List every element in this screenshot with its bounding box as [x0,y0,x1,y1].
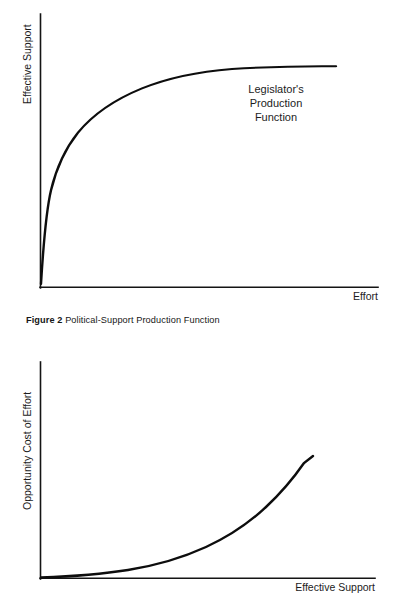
opportunity-cost-curve [41,456,313,578]
figure-opportunity-cost: Opportunity Cost of Effort Effective Sup… [0,350,394,611]
figure-caption: Figure 2 Political-Support Production Fu… [26,314,376,327]
y-axis-label-top: Effective Support [21,24,33,104]
annotation-line-2: Production [250,97,303,109]
annotation-line-3: Function [255,111,297,123]
x-axis-label-top: Effort [353,290,378,302]
curve-annotation-top: Legislator's Production Function [248,83,304,123]
annotation-line-1: Legislator's [248,83,304,95]
y-axis-label-bottom: Opportunity Cost of Effort [21,392,33,510]
production-function-plot: Effective Support Effort Legislator's Pr… [0,0,394,305]
x-axis-label-bottom: Effective Support [295,581,375,593]
figure-caption-title: Political-Support Production Function [65,315,220,325]
figure-caption-number: Figure 2 [26,315,62,325]
opportunity-cost-plot: Opportunity Cost of Effort Effective Sup… [0,350,394,611]
figure-production-function: Effective Support Effort Legislator's Pr… [0,0,394,305]
figure-page: Effective Support Effort Legislator's Pr… [0,0,394,611]
